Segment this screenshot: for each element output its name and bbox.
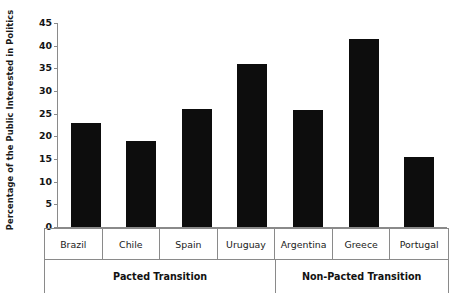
bar-slot <box>225 23 281 227</box>
bar-slot <box>336 23 392 227</box>
y-axis-title: Percentage of the Public Interested in P… <box>0 0 20 240</box>
y-axis-tick-label: 40 <box>39 41 52 50</box>
group-label-cell: Non-Pacted Transition <box>275 260 448 293</box>
group-label-row: Pacted TransitionNon-Pacted Transition <box>45 259 448 293</box>
country-label-cell: Greece <box>333 229 391 259</box>
country-label-cell: Uruguay <box>218 229 276 259</box>
bar-chart: Percentage of the Public Interested in P… <box>0 0 453 296</box>
bar-slot <box>280 23 336 227</box>
bar[interactable] <box>293 110 323 227</box>
group-label-cell: Pacted Transition <box>45 260 275 293</box>
y-axis-tick-label: 20 <box>39 132 52 141</box>
country-label-cell: Brazil <box>45 229 103 259</box>
bar[interactable] <box>404 157 434 227</box>
plot-area <box>57 23 447 228</box>
y-axis-tick-label: 10 <box>39 177 52 186</box>
y-axis-tick-label: 5 <box>45 200 52 209</box>
bar[interactable] <box>126 141 156 227</box>
y-axis-tick-label: 30 <box>39 86 52 95</box>
country-label-cell: Portugal <box>390 229 448 259</box>
bar-slot <box>391 23 447 227</box>
country-label-row: BrazilChileSpainUruguayArgentinaGreecePo… <box>45 229 448 259</box>
category-label-table: BrazilChileSpainUruguayArgentinaGreecePo… <box>44 228 449 293</box>
y-axis-tick-label: 35 <box>39 64 52 73</box>
y-axis-tick-label: 45 <box>39 18 52 27</box>
bar[interactable] <box>349 39 379 227</box>
y-axis-tick-label: 25 <box>39 109 52 118</box>
bar[interactable] <box>71 123 101 227</box>
bar-slot <box>58 23 114 227</box>
bar[interactable] <box>182 109 212 227</box>
bar-slot <box>114 23 170 227</box>
country-label-cell: Argentina <box>275 229 333 259</box>
country-label-cell: Spain <box>160 229 218 259</box>
y-axis-tick-label: 15 <box>39 154 52 163</box>
bar-slot <box>169 23 225 227</box>
bar[interactable] <box>237 64 267 227</box>
y-axis-title-text: Percentage of the Public Interested in P… <box>5 10 15 230</box>
bar-series <box>58 23 447 227</box>
country-label-cell: Chile <box>103 229 161 259</box>
y-axis-tick-labels: 051015202530354045 <box>28 23 52 228</box>
